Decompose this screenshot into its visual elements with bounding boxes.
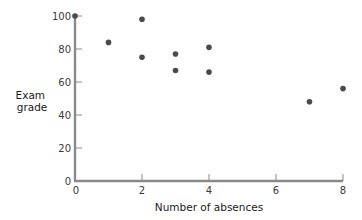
- data-point: [340, 86, 346, 92]
- x-tick-label: 8: [340, 185, 346, 196]
- x-tick-label: 0: [73, 185, 79, 196]
- scatter-chart: 020406080100 02468 Number of absences Ex…: [0, 0, 362, 220]
- y-tick-label: 100: [52, 11, 71, 22]
- y-tick-label: 20: [58, 143, 71, 154]
- x-axis-ticks: 02468: [73, 174, 346, 196]
- data-point: [173, 51, 179, 57]
- x-axis-title: Number of absences: [155, 201, 263, 213]
- data-point: [72, 13, 78, 19]
- data-point: [173, 68, 179, 74]
- data-point: [139, 17, 145, 23]
- x-tick-label: 2: [139, 185, 145, 196]
- y-tick-label: 0: [65, 176, 71, 187]
- data-points: [72, 13, 346, 104]
- data-point: [106, 40, 112, 46]
- y-axis-title-line-1: Exam: [16, 89, 46, 101]
- y-tick-label: 40: [58, 110, 71, 121]
- data-point: [307, 99, 313, 105]
- data-point: [139, 54, 145, 60]
- x-tick-label: 6: [273, 185, 279, 196]
- data-point: [206, 69, 212, 75]
- y-axis-title: Exam grade: [16, 89, 49, 113]
- x-tick-label: 4: [206, 185, 212, 196]
- y-axis-title-line-2: grade: [17, 101, 48, 113]
- y-tick-label: 60: [58, 77, 71, 88]
- y-tick-label: 80: [58, 44, 71, 55]
- y-axis-ticks: 020406080100: [52, 11, 82, 187]
- data-point: [206, 45, 212, 51]
